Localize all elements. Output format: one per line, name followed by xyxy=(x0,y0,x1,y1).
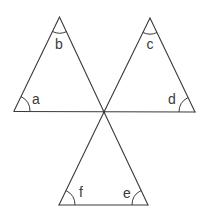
triangles-diagram: a b c d e f xyxy=(0,0,205,221)
angle-arc-e xyxy=(132,191,141,206)
angle-arc-b xyxy=(53,32,67,34)
angle-label-f: f xyxy=(79,184,83,200)
angle-label-d: d xyxy=(168,91,176,107)
angle-label-c: c xyxy=(147,36,154,52)
angle-arc-f xyxy=(66,191,75,205)
angle-label-a: a xyxy=(32,91,40,107)
edge-right-inner xyxy=(104,18,150,112)
angle-arc-a xyxy=(21,97,30,111)
angle-label-e: e xyxy=(123,185,131,201)
center-vertex xyxy=(103,111,105,113)
angle-arc-c xyxy=(143,33,157,35)
angle-label-b: b xyxy=(55,36,63,52)
triangle-left xyxy=(14,17,104,112)
triangle-right xyxy=(104,18,195,112)
triangle-bottom xyxy=(59,112,148,205)
angle-arc-d xyxy=(179,98,188,112)
